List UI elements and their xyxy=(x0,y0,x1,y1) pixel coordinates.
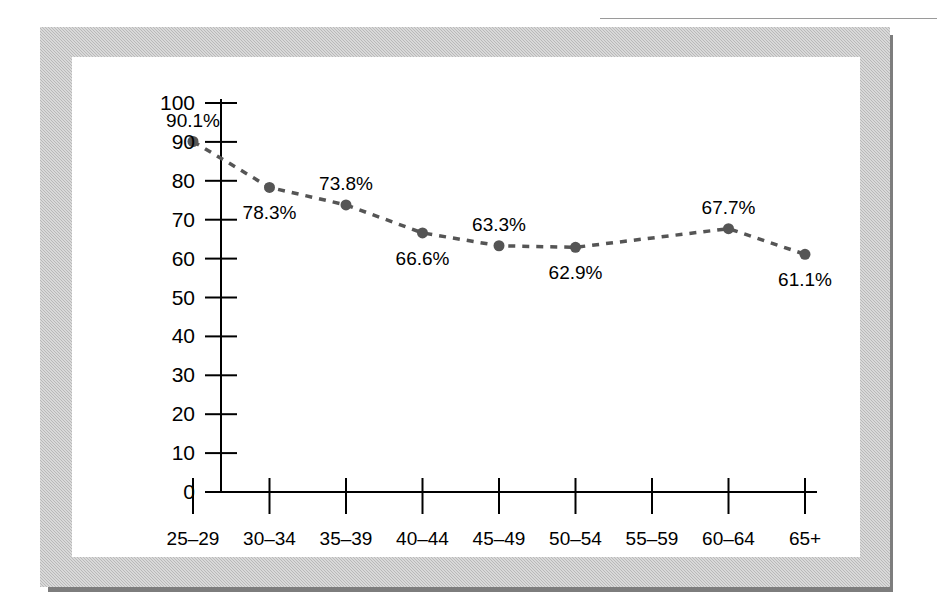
y-axis-tick-label: 0 xyxy=(183,481,195,502)
data-point-marker xyxy=(417,227,428,238)
data-point-marker xyxy=(341,199,352,210)
y-axis-tick-label: 40 xyxy=(172,325,195,346)
x-axis-tick-label: 65+ xyxy=(745,529,865,548)
y-axis-tick-label: 60 xyxy=(172,248,195,269)
data-point-label: 78.3% xyxy=(210,203,330,222)
data-point-label: 63.3% xyxy=(439,215,559,234)
data-point-marker xyxy=(570,242,581,253)
data-point-label: 67.7% xyxy=(669,198,789,217)
figure-page: 010203040506070809010025–2930–3435–3940–… xyxy=(0,0,937,610)
data-point-marker xyxy=(800,249,811,260)
data-point-label: 90.1% xyxy=(133,111,253,130)
page-top-rule xyxy=(600,18,937,19)
y-axis-tick-label: 90 xyxy=(172,131,195,152)
data-point-marker xyxy=(494,240,505,251)
y-axis-tick-label: 20 xyxy=(172,403,195,424)
data-point-label: 62.9% xyxy=(516,263,636,282)
data-point-label: 66.6% xyxy=(363,249,483,268)
data-point-label: 61.1% xyxy=(745,270,865,289)
y-axis-tick-label: 50 xyxy=(172,287,195,308)
y-axis-tick-label: 80 xyxy=(172,170,195,191)
data-point-label: 73.8% xyxy=(286,174,406,193)
chart-card: 010203040506070809010025–2930–3435–3940–… xyxy=(72,57,860,557)
y-axis-tick-label: 70 xyxy=(172,209,195,230)
data-point-marker xyxy=(264,182,275,193)
y-axis-tick-label: 10 xyxy=(172,442,195,463)
y-axis-tick-label: 30 xyxy=(172,364,195,385)
data-point-marker xyxy=(723,223,734,234)
